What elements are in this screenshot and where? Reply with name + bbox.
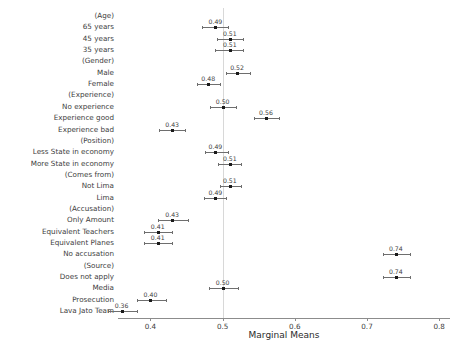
data-point (222, 106, 225, 109)
data-point (171, 129, 174, 132)
confidence-interval-cap (226, 72, 227, 75)
data-point-value-label: 0.49 (209, 189, 223, 196)
category-label: Equivalent Planes (0, 239, 116, 247)
confidence-interval-cap (108, 310, 109, 313)
confidence-interval-cap (215, 49, 216, 52)
data-point (121, 310, 124, 313)
data-point (214, 197, 217, 200)
data-point-value-label: 0.51 (223, 155, 237, 162)
data-point (207, 83, 210, 86)
category-label: No accusation (0, 250, 116, 258)
data-point (236, 72, 239, 75)
confidence-interval-cap (241, 163, 242, 166)
category-label: Media (0, 284, 116, 292)
data-point-value-label: 0.50 (216, 98, 230, 105)
data-point-value-label: 0.40 (144, 291, 158, 298)
data-point (265, 117, 268, 120)
category-label: Only Amount (0, 216, 116, 224)
data-point-value-label: 0.51 (223, 41, 237, 48)
confidence-interval-cap (137, 299, 138, 302)
category-group-label: (Age) (0, 12, 116, 20)
category-group-label: (Experience) (0, 91, 116, 99)
data-point-value-label: 0.43 (165, 121, 179, 128)
category-label: Male (0, 69, 116, 77)
category-group-label: (Gender) (0, 57, 116, 65)
category-label: Less State in economy (0, 148, 116, 156)
data-point-value-label: 0.56 (259, 109, 273, 116)
confidence-interval-cap (205, 151, 206, 154)
marginal-means-chart: (Age)65 years45 years35 years(Gender)Mal… (0, 0, 452, 346)
x-axis-line (118, 318, 450, 319)
confidence-interval-cap (241, 185, 242, 188)
confidence-interval-cap (202, 26, 203, 29)
data-point (157, 242, 160, 245)
x-tick (367, 318, 368, 321)
confidence-interval-cap (218, 163, 219, 166)
data-point-value-label: 0.74 (389, 245, 403, 252)
confidence-interval-cap (238, 287, 239, 290)
data-point (214, 151, 217, 154)
confidence-interval-cap (144, 242, 145, 245)
category-label: 35 years (0, 46, 116, 54)
category-label: No experience (0, 103, 116, 111)
data-point (229, 163, 232, 166)
category-label: Female (0, 80, 116, 88)
confidence-interval-cap (172, 231, 173, 234)
data-point (229, 185, 232, 188)
category-label: Lima (0, 194, 116, 202)
data-point-value-label: 0.49 (209, 18, 223, 25)
data-point-value-label: 0.74 (389, 268, 403, 275)
confidence-interval-cap (210, 106, 211, 109)
data-point (214, 26, 217, 29)
plot-panel: 0.490.510.510.520.480.500.560.430.490.51… (118, 8, 450, 318)
confidence-interval-cap (383, 276, 384, 279)
x-axis-title: Marginal Means (118, 330, 450, 340)
confidence-interval-cap (204, 197, 205, 200)
data-point (229, 49, 232, 52)
x-tick (223, 318, 224, 321)
confidence-interval-cap (220, 83, 221, 86)
confidence-interval-cap (383, 253, 384, 256)
category-label: More State in economy (0, 160, 116, 168)
category-label: Equivalent Teachers (0, 228, 116, 236)
category-group-label: (Comes from) (0, 171, 116, 179)
confidence-interval-cap (185, 129, 186, 132)
confidence-interval-cap (172, 242, 173, 245)
category-group-label: (Position) (0, 137, 116, 145)
data-point-value-label: 0.41 (151, 223, 165, 230)
x-tick (150, 318, 151, 321)
confidence-interval-cap (188, 219, 189, 222)
data-point (222, 287, 225, 290)
category-label-column: (Age)65 years45 years35 years(Gender)Mal… (0, 0, 116, 346)
data-point-value-label: 0.51 (223, 30, 237, 37)
category-label: Does not apply (0, 273, 116, 281)
data-point-value-label: 0.51 (223, 177, 237, 184)
confidence-interval-cap (410, 253, 411, 256)
category-label: Prosecution (0, 296, 116, 304)
confidence-interval-cap (217, 38, 218, 41)
confidence-interval-cap (144, 231, 145, 234)
confidence-interval-cap (159, 129, 160, 132)
data-point-value-label: 0.48 (201, 75, 215, 82)
data-point-value-label: 0.43 (165, 211, 179, 218)
category-label: Experience good (0, 114, 116, 122)
category-group-label: (Source) (0, 262, 116, 270)
category-label: Experience bad (0, 126, 116, 134)
data-point-value-label: 0.41 (151, 234, 165, 241)
confidence-interval-cap (209, 287, 210, 290)
confidence-interval-cap (236, 106, 237, 109)
data-point (171, 219, 174, 222)
category-label: 45 years (0, 35, 116, 43)
confidence-interval-cap (197, 83, 198, 86)
category-label: Lava Jato Team (0, 307, 116, 315)
confidence-interval-cap (279, 117, 280, 120)
confidence-interval-cap (243, 38, 244, 41)
data-point (149, 299, 152, 302)
confidence-interval-cap (243, 49, 244, 52)
confidence-interval-cap (166, 299, 167, 302)
data-point-value-label: 0.49 (209, 143, 223, 150)
confidence-interval-cap (254, 117, 255, 120)
data-point (395, 276, 398, 279)
category-label: Not Lima (0, 182, 116, 190)
category-label: 65 years (0, 23, 116, 31)
